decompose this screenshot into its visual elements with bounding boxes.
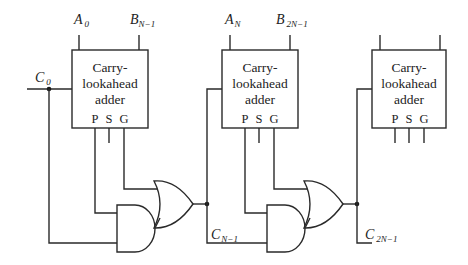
or-gate-1 [154,181,193,228]
pin-g-label: G [269,112,278,126]
cn-1-label: CN−1 [211,227,238,244]
block-title-line: adder [394,92,424,107]
cla-block-3: Carry- lookahead adder P S G [372,35,446,143]
c0-label: C0 [35,70,51,87]
block-title-line: lookahead [232,76,288,91]
block-title-line: Carry- [242,60,278,75]
input-label-bn-1: BN−1 [130,12,155,29]
and-gate-2 [267,205,305,252]
input-label-a0: A0 [73,12,90,29]
p-to-and-wire [95,128,117,213]
block-title-line: Carry- [92,60,128,75]
block-title-line: Carry- [391,60,427,75]
pin-s-label: S [106,112,113,126]
block-title-line: lookahead [381,76,437,91]
block-title-line: adder [245,92,275,107]
block-title-line: lookahead [82,76,138,91]
pin-g-label: G [419,112,428,126]
cla-block-2: Carry- lookahead adder P S G AN B2N−1 [222,12,308,128]
block-title-line: adder [95,92,125,107]
input-label-b2n-1: B2N−1 [276,12,308,29]
p-to-and-wire [245,128,267,213]
cla-block-1: Carry- lookahead adder P S G A0 BN−1 [72,12,155,128]
pin-p-label: P [92,112,99,126]
or-gate-2 [304,181,343,228]
pin-s-label: S [256,112,263,126]
pin-g-label: G [119,112,128,126]
carry-lookahead-diagram: Carry- lookahead adder P S G A0 BN−1 Car… [0,0,468,265]
and-gate-1 [117,205,155,252]
c2n-1-wire [357,89,372,243]
pin-p-label: P [242,112,249,126]
input-label-an: AN [224,12,242,29]
c2n-1-label: C2N−1 [365,227,397,244]
pin-p-label: P [392,112,399,126]
g-to-or-wire [124,128,158,189]
pin-s-label: S [406,112,413,126]
cn-1-wire [207,89,222,243]
g-to-or-wire [274,128,308,189]
